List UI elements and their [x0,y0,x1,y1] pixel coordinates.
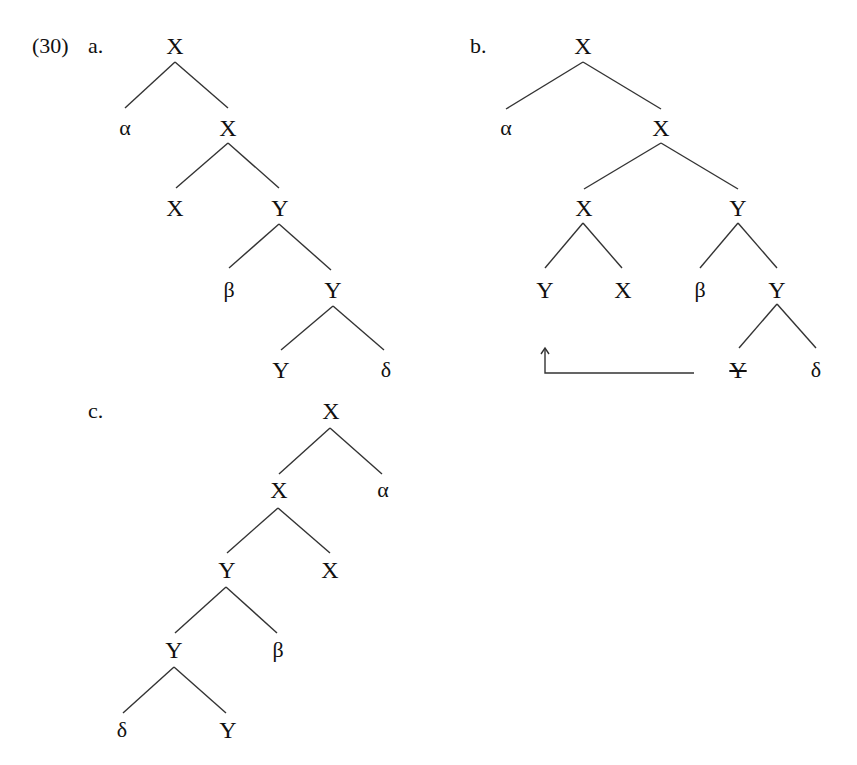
tree-c-branches [123,428,382,713]
tree-b-delta-node: δ [811,359,821,381]
tree-c-node: Y [219,718,236,742]
tree-b-label: b. [470,35,487,57]
example-number: (30) [32,35,69,57]
tree-c-beta-node: β [272,639,283,661]
tree-b-node: X [575,196,592,220]
tree-c-delta-node: δ [117,719,127,741]
tree-c-node: Y [165,638,182,662]
tree-a-branches [125,62,384,350]
tree-b-node: X [652,116,669,140]
tree-c-node: Y [218,558,235,582]
tree-c-node: X [270,478,287,502]
tree-a-node: Y [271,196,288,220]
tree-b-branches [506,62,816,348]
tree-b-trace-node-struck: Y [729,358,746,382]
tree-a-node: Y [324,278,341,302]
movement-arrow [541,348,694,373]
tree-a-root-node: X [166,34,183,58]
tree-a-label: a. [88,35,103,57]
tree-b-moved-node: Y [536,278,553,302]
tree-a-node: X [166,196,183,220]
tree-c-alpha-node: α [377,479,389,501]
tree-b-alpha-node: α [500,117,512,139]
tree-b-node: Y [729,196,746,220]
tree-c-label: c. [88,400,103,422]
tree-c-root-node: X [322,399,339,423]
tree-b-node: Y [768,278,785,302]
tree-a-delta-node: δ [381,359,391,381]
tree-b-node: X [614,278,631,302]
tree-a-node: X [219,116,236,140]
tree-a-node: Y [272,358,289,382]
tree-a-alpha-node: α [119,117,131,139]
tree-c-node: X [321,558,338,582]
tree-a-beta-node: β [223,279,234,301]
tree-b-root-node: X [574,34,591,58]
tree-b-beta-node: β [694,279,705,301]
